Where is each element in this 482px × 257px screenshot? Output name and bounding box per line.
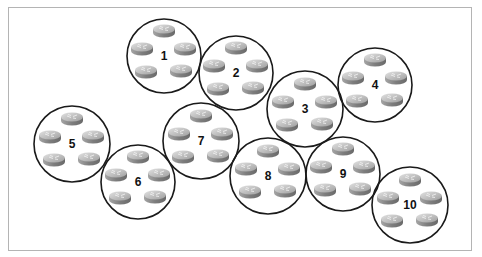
router-icon bbox=[276, 119, 298, 132]
cluster-4: 4 bbox=[338, 48, 412, 122]
cluster-3: 3 bbox=[267, 71, 343, 147]
router-icon bbox=[207, 150, 229, 163]
router-icon bbox=[349, 183, 371, 196]
router-icon bbox=[385, 72, 407, 85]
cluster-10: 10 bbox=[372, 167, 448, 243]
cluster-6: 6 bbox=[101, 145, 175, 219]
router-icon bbox=[353, 161, 375, 174]
router-icon bbox=[257, 145, 279, 158]
router-icon bbox=[135, 66, 157, 79]
cluster-label: 10 bbox=[403, 198, 417, 212]
cluster-label: 3 bbox=[302, 102, 309, 116]
cluster-label: 9 bbox=[340, 167, 347, 181]
router-icon bbox=[78, 153, 100, 166]
router-icon bbox=[235, 163, 257, 176]
router-icon bbox=[399, 174, 421, 187]
router-icon bbox=[315, 96, 337, 109]
router-icon bbox=[364, 54, 386, 67]
router-icon bbox=[190, 110, 212, 123]
router-icon bbox=[127, 151, 149, 164]
router-icon bbox=[246, 60, 268, 73]
cluster-label: 4 bbox=[372, 78, 379, 92]
router-icon bbox=[342, 72, 364, 85]
cluster-8: 8 bbox=[230, 138, 306, 214]
router-icon bbox=[346, 95, 368, 108]
router-icon bbox=[332, 143, 354, 156]
router-icon bbox=[61, 113, 83, 126]
router-icon bbox=[82, 131, 104, 144]
cluster-2: 2 bbox=[199, 36, 273, 110]
router-icon bbox=[420, 192, 442, 205]
cluster-label: 8 bbox=[265, 169, 272, 183]
router-icon bbox=[242, 82, 264, 95]
router-icon bbox=[153, 25, 175, 38]
router-icon bbox=[168, 128, 190, 141]
router-icon bbox=[381, 215, 403, 228]
router-icon bbox=[294, 78, 316, 91]
router-icon bbox=[314, 184, 336, 197]
router-icon bbox=[109, 192, 131, 205]
router-icon bbox=[274, 185, 296, 198]
router-icon bbox=[225, 42, 247, 55]
router-icon bbox=[416, 214, 438, 227]
router-icon bbox=[131, 43, 153, 56]
router-icon bbox=[211, 128, 233, 141]
router-icon bbox=[39, 131, 61, 144]
cluster-9: 9 bbox=[306, 137, 380, 211]
router-icon bbox=[203, 60, 225, 73]
router-icon bbox=[239, 186, 261, 199]
router-icon bbox=[170, 65, 192, 78]
router-icon bbox=[174, 43, 196, 56]
router-icon bbox=[377, 192, 399, 205]
network-cluster-diagram: 12345678910 bbox=[0, 0, 482, 257]
cluster-5: 5 bbox=[34, 106, 110, 182]
router-icon bbox=[272, 96, 294, 109]
cluster-1: 1 bbox=[127, 19, 201, 93]
router-icon bbox=[207, 83, 229, 96]
router-icon bbox=[311, 118, 333, 131]
router-icon bbox=[381, 94, 403, 107]
router-icon bbox=[148, 169, 170, 182]
router-icon bbox=[144, 191, 166, 204]
cluster-label: 6 bbox=[135, 175, 142, 189]
router-icon bbox=[172, 151, 194, 164]
router-icon bbox=[43, 154, 65, 167]
cluster-label: 2 bbox=[233, 66, 240, 80]
router-icon bbox=[105, 169, 127, 182]
router-icon bbox=[278, 163, 300, 176]
router-icon bbox=[310, 161, 332, 174]
cluster-7: 7 bbox=[163, 103, 239, 179]
cluster-label: 5 bbox=[69, 137, 76, 151]
cluster-label: 7 bbox=[198, 134, 205, 148]
cluster-label: 1 bbox=[161, 49, 168, 63]
